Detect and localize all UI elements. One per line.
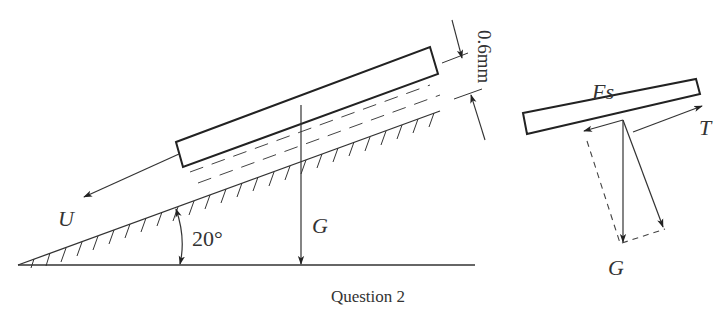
angle-arc bbox=[176, 209, 182, 264]
plate bbox=[176, 47, 438, 167]
weight-label: G bbox=[312, 213, 328, 238]
tension-label: T bbox=[699, 115, 713, 140]
shear-force-label: Fs bbox=[591, 79, 614, 104]
angle-label: 20° bbox=[192, 226, 223, 251]
shear-force-arrow bbox=[584, 120, 623, 131]
velocity-arrow bbox=[84, 154, 179, 197]
right-diagram: Fs T G bbox=[523, 79, 713, 280]
weight-label-free-body: G bbox=[608, 255, 624, 280]
velocity-label: U bbox=[58, 206, 76, 231]
inclined-surface bbox=[18, 111, 440, 265]
normal-component-arrow bbox=[623, 120, 663, 227]
question-2-figure: U G 20° 0.6mm Fs T G bbox=[0, 0, 722, 314]
tension-arrow bbox=[633, 106, 702, 132]
parallelogram-dashed-lines bbox=[587, 141, 665, 243]
oil-film bbox=[190, 85, 440, 183]
figure-caption: Question 2 bbox=[331, 287, 405, 306]
gap-dimension: 0.6mm bbox=[442, 20, 495, 140]
incline-hatching bbox=[31, 113, 434, 268]
left-diagram: U G 20° 0.6mm bbox=[18, 20, 495, 268]
gap-label: 0.6mm bbox=[474, 30, 495, 84]
